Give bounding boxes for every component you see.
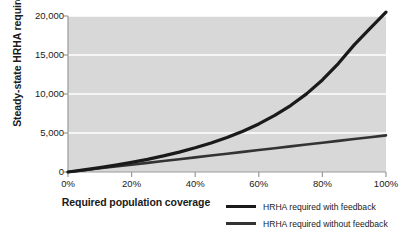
x-axis-tick-label: 40% <box>172 178 218 189</box>
chart-legend: HRHA required with feedbackHRHA required… <box>226 198 388 232</box>
x-axis-tick-label: 100% <box>363 178 408 189</box>
legend-label: HRHA required without feedback <box>263 219 388 229</box>
legend-color-swatch <box>226 222 256 225</box>
legend-label: HRHA required with feedback <box>263 202 376 212</box>
y-axis-tick-label: 15,000 <box>16 49 64 60</box>
legend-item: HRHA required without feedback <box>226 215 388 232</box>
y-axis-tick-label: 0 <box>16 166 64 177</box>
y-axis-tick-label: 10,000 <box>16 88 64 99</box>
y-axis-tick-label: 5,000 <box>16 127 64 138</box>
x-axis-tick-label: 20% <box>109 178 155 189</box>
x-axis-tick-label: 0% <box>45 178 91 189</box>
y-axis-tick-label: 20,000 <box>16 10 64 21</box>
legend-color-swatch <box>226 205 256 208</box>
x-axis-tick-label: 60% <box>236 178 282 189</box>
x-axis-tick-label: 80% <box>299 178 345 189</box>
x-axis-title: Required population coverage <box>56 196 216 208</box>
legend-item: HRHA required with feedback <box>226 198 388 215</box>
chart-figure: Steady-state HRHA required 05,00010,0001… <box>0 0 408 240</box>
